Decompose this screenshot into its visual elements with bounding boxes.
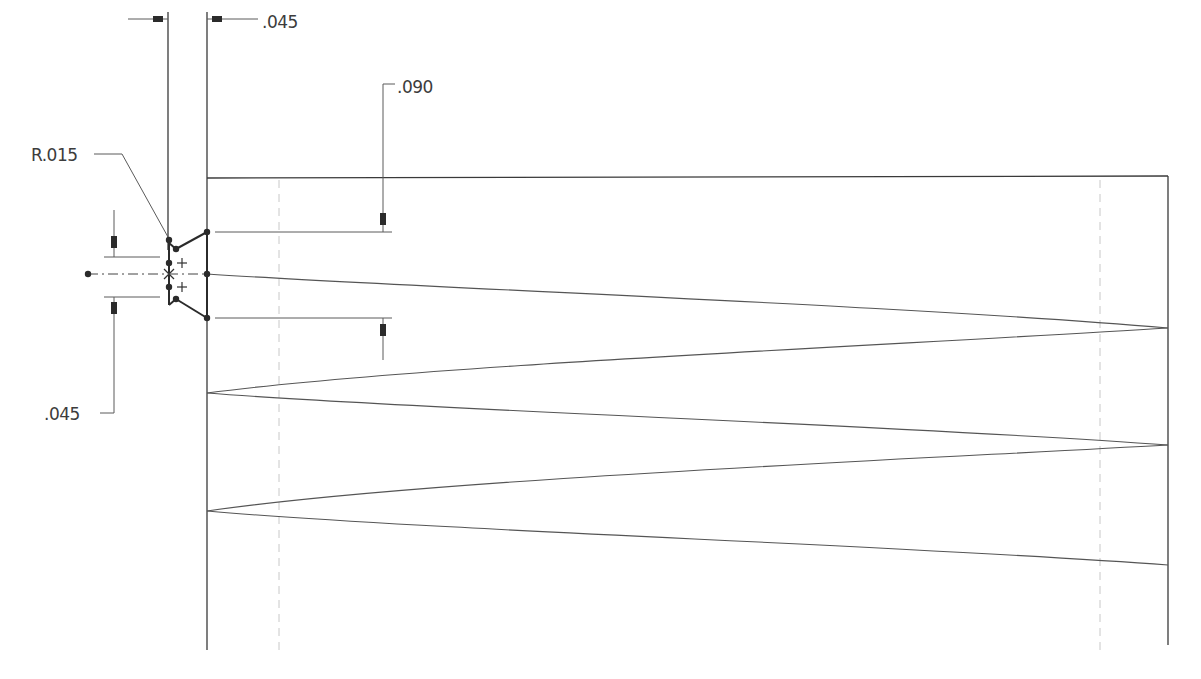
dimension-label-depth[interactable]: .090 [397,79,433,96]
centerline-endpoint [85,271,91,277]
cad-sketch-canvas[interactable] [0,0,1201,679]
dimension-radius-leader[interactable] [94,154,168,237]
thread-profile[interactable] [166,229,210,321]
dimension-label-root-width[interactable]: .045 [44,406,80,423]
dimension-root-width[interactable] [100,210,160,413]
body-outline[interactable] [207,12,1168,650]
dimension-top-width[interactable] [128,16,258,22]
dimension-label-radius[interactable]: R.015 [31,147,78,164]
dimension-depth[interactable] [215,84,395,360]
dimension-label-top-width[interactable]: .045 [262,14,298,31]
